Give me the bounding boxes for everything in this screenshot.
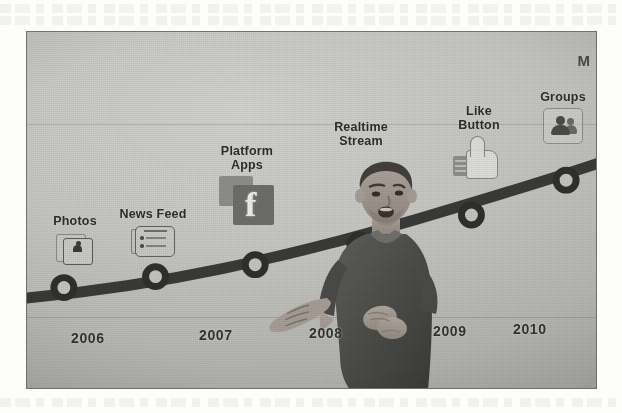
milestone-label: Realtime Stream (313, 120, 409, 148)
milestone-label: News Feed (105, 207, 201, 221)
scanned-page: Photos News Feed Platform App (0, 0, 622, 413)
milestone-realtime-stream: Realtime Stream (313, 120, 409, 148)
axis-year-2009: 2009 (433, 323, 467, 339)
axis-year-2010: 2010 (513, 321, 547, 337)
thumbs-up-icon (453, 136, 505, 180)
milestone-news-feed: News Feed (105, 207, 201, 257)
milestone-label: Photos (41, 214, 109, 228)
presentation-photograph: Photos News Feed Platform App (26, 31, 597, 389)
news-feed-icon (131, 225, 175, 257)
page-ghost-text-line (0, 4, 622, 13)
slide-title-fragment: M (578, 52, 591, 69)
milestone-platform-apps: Platform Apps f (199, 144, 295, 226)
people-icon (543, 108, 583, 144)
page-ghost-text-line (0, 398, 622, 407)
page-ghost-text-line (0, 16, 622, 25)
milestone-photos: Photos (41, 214, 109, 266)
axis-year-2008: 2008 (309, 325, 343, 341)
axis-year-2006: 2006 (71, 330, 105, 346)
milestone-label: Groups (525, 90, 597, 104)
milestone-groups: Groups (525, 90, 597, 144)
photo-frame-icon (56, 232, 94, 266)
axis-year-2007: 2007 (199, 327, 233, 343)
milestone-label: Like Button (439, 104, 519, 132)
milestone-label: Platform Apps (199, 144, 295, 172)
speaker-figure (320, 156, 455, 389)
facebook-tile-icon: f (219, 176, 275, 226)
